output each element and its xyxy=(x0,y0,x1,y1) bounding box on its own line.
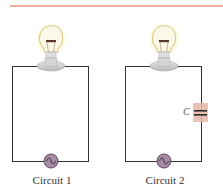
circuit-1-label: Circuit 1 xyxy=(33,174,72,186)
capacitor-icon xyxy=(193,103,208,122)
light-bulb-icon xyxy=(33,21,69,71)
circuit-2 xyxy=(126,21,209,168)
capacitor-label: C xyxy=(183,106,190,117)
circuit-1 xyxy=(13,21,89,168)
light-bulb-icon xyxy=(146,21,182,71)
circuit-2-label: Circuit 2 xyxy=(146,174,185,186)
circuit-1-wire xyxy=(13,67,89,162)
circuit-2-wire xyxy=(126,67,202,162)
ac-source-icon xyxy=(44,154,58,168)
ac-source-icon xyxy=(157,154,171,168)
circuit-diagram xyxy=(0,0,223,195)
